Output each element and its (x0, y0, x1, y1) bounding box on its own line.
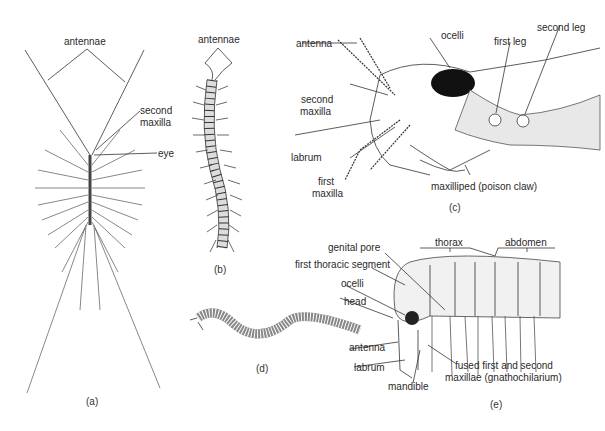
label-c-first-maxilla-1: first (318, 176, 334, 187)
label-c-maxilliped: maxilliped (poison claw) (431, 181, 537, 192)
label-a-antennae: antennae (64, 36, 106, 47)
label-c-first-leg: first leg (494, 36, 526, 47)
label-e-labrum: labrum (354, 362, 385, 373)
caption-a: (a) (86, 396, 98, 407)
label-b-antennae: antennae (198, 34, 240, 45)
caption-c: (c) (449, 202, 461, 213)
label-a-eye: eye (158, 148, 174, 159)
panel-a-drawing (25, 49, 160, 393)
label-c-labrum: labrum (291, 152, 322, 163)
label-a-second-maxilla-1: second (140, 105, 172, 116)
caption-d: (d) (256, 363, 268, 374)
panel-d-drawing (190, 313, 360, 334)
label-e-thorax: thorax (435, 237, 463, 248)
label-e-ocelli: ocelli (341, 278, 364, 289)
label-c-second-maxilla-2: maxilla (300, 106, 331, 117)
label-e-genital-pore: genital pore (328, 242, 380, 253)
label-e-gnathochilarium-2: maxillae (gnathochilarium) (445, 372, 562, 383)
panel-b-drawing (192, 48, 242, 252)
label-c-ocelli: ocelli (441, 30, 464, 41)
label-c-antenna: antenna (296, 38, 332, 49)
label-e-head: head (344, 296, 366, 307)
label-a-second-maxilla-2: maxilla (140, 117, 171, 128)
caption-e: (e) (490, 399, 502, 410)
panel-c-drawing (295, 25, 600, 180)
label-e-gnathochilarium-1: fused first and second (455, 360, 553, 371)
label-e-antenna: antenna (349, 342, 385, 353)
caption-b: (b) (214, 264, 226, 275)
label-c-second-leg: second leg (537, 22, 585, 33)
label-c-first-maxilla-2: maxilla (312, 188, 343, 199)
label-e-first-thoracic-segment: first thoracic segment (295, 259, 390, 270)
label-e-abdomen: abdomen (505, 237, 547, 248)
label-c-second-maxilla-1: second (301, 94, 333, 105)
label-e-mandible: mandible (388, 381, 429, 392)
